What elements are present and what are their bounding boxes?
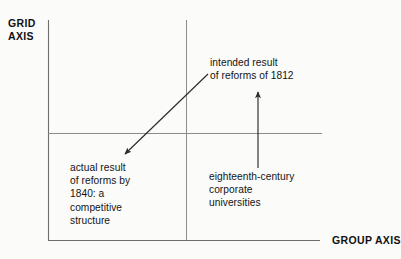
group-axis-label: GROUP AXIS xyxy=(332,234,401,247)
annotation-eighteenth-century-universities: eighteenth-century corporate universitie… xyxy=(209,170,294,210)
diagram-canvas xyxy=(0,0,401,259)
quadrant-diagram-figure: GRID AXIS GROUP AXIS intended result of … xyxy=(0,0,401,259)
intended-to-actual-arrow xyxy=(125,74,208,154)
annotation-actual-result: actual result of reforms by 1840: a comp… xyxy=(70,161,130,227)
annotation-intended-result: intended result of reforms of 1812 xyxy=(210,56,294,82)
grid-axis-label: GRID AXIS xyxy=(8,17,36,43)
